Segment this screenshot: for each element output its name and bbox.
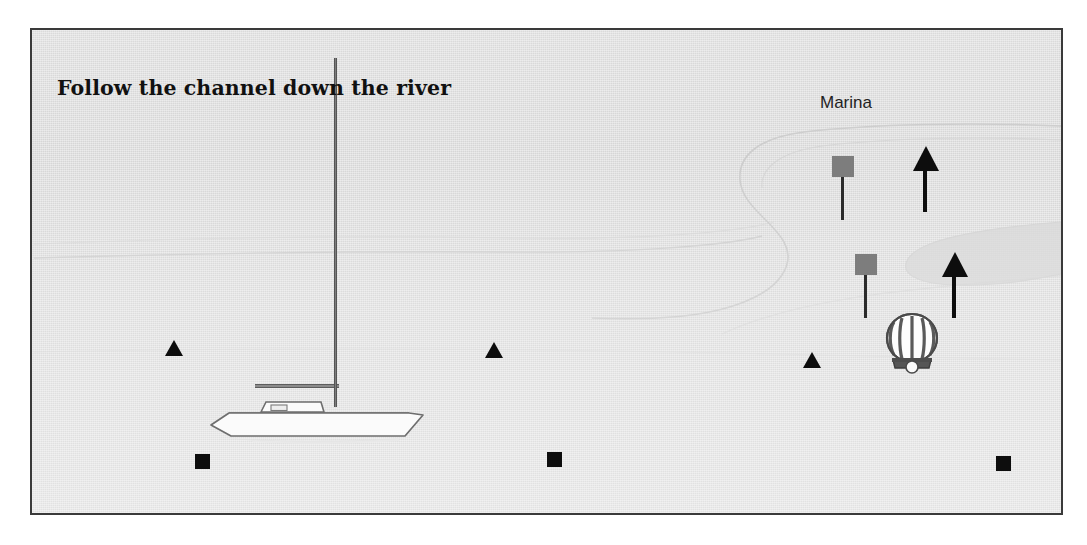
sailboat [187, 58, 427, 448]
channel-arrow-upper-head [913, 146, 939, 171]
navigation-triangle-center [485, 342, 503, 358]
scene-root: Follow the channel down the river Marina [0, 0, 1087, 545]
channel-arrow-lower-head [942, 252, 968, 277]
boat-mast [334, 58, 337, 407]
marina-label: Marina [820, 93, 872, 113]
navigation-triangle-right [803, 352, 821, 368]
marina-flag-upper-head [832, 156, 854, 177]
navigation-square-left [195, 454, 210, 469]
marina-flag-upper-pole [841, 177, 844, 220]
marina-flag-lower-head [855, 254, 877, 275]
boat-boom [255, 384, 339, 388]
page-title: Follow the channel down the river [57, 76, 451, 100]
striped-balloon-buoy [883, 312, 941, 374]
navigation-square-center [547, 452, 562, 467]
channel-arrow-upper-shaft [923, 171, 927, 212]
navigation-triangle-left [165, 340, 183, 356]
illustration-panel: Follow the channel down the river Marina [30, 28, 1063, 515]
navigation-square-right [996, 456, 1011, 471]
channel-arrow-lower-shaft [952, 277, 956, 318]
boat-hull [209, 394, 427, 446]
marina-flag-lower-pole [864, 275, 867, 318]
